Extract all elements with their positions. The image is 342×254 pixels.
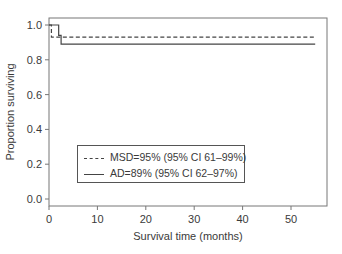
x-tick-label: 30 [188,213,200,225]
y-axis-title: Proportion surviving [4,63,16,160]
survival-curve-ad [49,25,315,44]
y-tick-label: 0.0 [27,193,42,205]
y-tick-label: 0.8 [27,54,42,66]
x-axis-title: Survival time (months) [133,230,242,242]
y-tick-label: 1.0 [27,19,42,31]
x-tick-label: 40 [236,213,248,225]
legend-item-ad: AD=89% (95% CI 62–97%) [84,166,238,180]
series-group [49,25,315,44]
x-tick-label: 50 [285,213,297,225]
x-axis: 01020304050 [46,206,297,225]
survival-curve-msd [49,25,315,37]
x-tick-label: 20 [140,213,152,225]
solid-line-icon [84,174,104,175]
legend: MSD=95% (95% CI 61–99%) AD=89% (95% CI 6… [77,145,245,183]
dashed-line-icon [84,158,104,159]
km-chart: 0.00.20.40.60.81.0 01020304050 Survival … [0,0,342,254]
y-tick-label: 0.4 [27,123,42,135]
y-tick-label: 0.6 [27,89,42,101]
legend-item-msd: MSD=95% (95% CI 61–99%) [84,150,246,164]
x-tick-label: 10 [91,213,103,225]
legend-label-msd: MSD=95% (95% CI 61–99%) [110,151,246,163]
x-tick-label: 0 [46,213,52,225]
y-axis: 0.00.20.40.60.81.0 [27,19,49,205]
y-tick-label: 0.2 [27,158,42,170]
legend-label-ad: AD=89% (95% CI 62–97%) [110,167,238,179]
